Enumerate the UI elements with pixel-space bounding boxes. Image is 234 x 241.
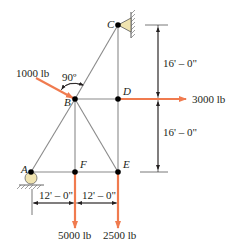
load-label-e: 2500 lb bbox=[103, 229, 137, 241]
load-label-d: 3000 lb bbox=[192, 93, 226, 105]
node-label-c: C bbox=[107, 18, 115, 30]
truss-svg: 16' – 0" 16' – 0" 12' – 0" 12' – 0" 1000… bbox=[0, 0, 234, 241]
load-label-b: 1000 lb bbox=[16, 67, 50, 79]
dimension-vertical-top: 16' – 0" bbox=[163, 57, 197, 69]
member-bc bbox=[75, 25, 118, 99]
dimension-vertical-bottom: 16' – 0" bbox=[163, 126, 197, 138]
joint-e bbox=[115, 169, 121, 175]
truss-diagram: 16' – 0" 16' – 0" 12' – 0" 12' – 0" 1000… bbox=[0, 0, 234, 241]
node-label-b: B bbox=[64, 96, 71, 108]
joint-d bbox=[115, 96, 121, 102]
joint-f bbox=[72, 169, 78, 175]
load-label-f: 5000 lb bbox=[58, 229, 92, 241]
joint-a bbox=[28, 169, 34, 175]
node-label-f: F bbox=[79, 158, 87, 170]
joint-b bbox=[72, 96, 78, 102]
dimension-horizontal-right: 12' – 0" bbox=[82, 189, 116, 201]
loads bbox=[36, 78, 186, 228]
right-angle-marker bbox=[61, 83, 83, 90]
node-label-d: D bbox=[122, 85, 131, 97]
joint-c bbox=[115, 22, 121, 28]
dimension-horizontal-left: 12' – 0" bbox=[39, 189, 73, 201]
member-ab bbox=[31, 99, 75, 172]
angle-label: 90º bbox=[62, 71, 77, 83]
node-label-e: E bbox=[122, 158, 130, 170]
node-label-a: A bbox=[20, 163, 28, 175]
